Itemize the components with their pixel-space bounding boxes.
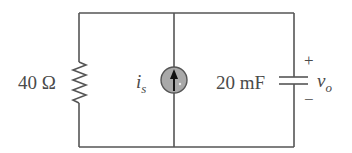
resistor-label: 40 Ω xyxy=(18,73,56,92)
source-label: is xyxy=(136,72,146,91)
resistor-branch xyxy=(73,13,86,147)
plus-sign: + xyxy=(304,52,314,69)
minus-sign: − xyxy=(304,91,314,108)
source-label-sub: s xyxy=(141,81,146,96)
resistor-icon xyxy=(73,62,86,103)
current-source-branch xyxy=(161,13,187,147)
output-voltage-label: vo xyxy=(317,71,332,90)
capacitor-branch xyxy=(279,13,308,147)
vo-sub: o xyxy=(325,80,332,95)
capacitor-label: 20 mF xyxy=(216,73,265,92)
